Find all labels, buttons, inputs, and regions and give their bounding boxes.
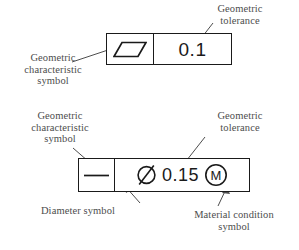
svg-text:M: M — [211, 168, 222, 183]
tolerance-value-lower: 0.15 — [162, 166, 199, 184]
tolerance-value-upper: 0.1 — [179, 40, 207, 59]
characteristic-symbol-cell-lower — [79, 159, 114, 191]
label-material-condition: Material condition symbol — [172, 209, 296, 232]
diameter-icon — [136, 162, 157, 188]
parallelogram-icon — [113, 41, 147, 58]
feature-control-frame-lower[interactable]: 0.15 M — [78, 158, 250, 192]
feature-control-frame-upper[interactable]: 0.1 — [106, 33, 232, 65]
label-diameter: Diameter symbol — [18, 205, 138, 217]
diagram-canvas: 0.1 0.15 M — [0, 0, 299, 250]
straightness-line-icon — [83, 169, 110, 181]
tolerance-value-cell-upper: 0.1 — [153, 34, 231, 64]
label-lower-tolerance: Geometric tolerance — [185, 110, 295, 133]
characteristic-symbol-cell-upper — [107, 34, 153, 64]
label-upper-characteristic: Geometric characteristic symbol — [2, 52, 104, 87]
label-upper-tolerance: Geometric tolerance — [185, 3, 295, 26]
material-condition-mmc-icon: M — [204, 163, 228, 187]
tolerance-value-cell-lower: 0.15 M — [114, 159, 249, 191]
label-lower-characteristic: Geometric characteristic symbol — [4, 110, 116, 145]
